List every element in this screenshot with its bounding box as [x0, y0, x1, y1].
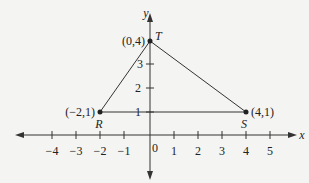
x-tick-label: −3 — [70, 144, 83, 158]
y-axis-label: y — [142, 6, 149, 20]
point-S-name: S — [241, 117, 247, 131]
segment-TS — [150, 41, 246, 112]
triangle-RST — [100, 41, 246, 112]
x-tick-label: 5 — [267, 144, 273, 158]
point-S-coord: (4,1) — [251, 105, 274, 119]
point-T — [148, 39, 153, 44]
x-tick-label: −1 — [118, 144, 131, 158]
y-tick-label: 3 — [137, 57, 143, 71]
coordinate-plane: −4 −3 −2 −1 0 1 2 3 4 5 1 2 3 y x (0,4) … — [0, 0, 309, 183]
point-R-coord: (−2,1) — [65, 105, 95, 119]
point-T-name: T — [155, 29, 163, 43]
y-axis-down-arrow-icon — [147, 171, 153, 180]
origin-label: 0 — [152, 141, 158, 155]
x-axis-right-arrow-icon — [288, 132, 297, 138]
x-tick-label: 4 — [243, 144, 249, 158]
y-tick-label: 2 — [135, 81, 141, 95]
x-tick-label: −2 — [94, 144, 107, 158]
point-S — [244, 110, 249, 115]
x-tick-label: 3 — [219, 144, 225, 158]
x-tick-label: 1 — [171, 144, 177, 158]
segment-TR — [100, 41, 150, 112]
x-tick-label: −4 — [46, 144, 59, 158]
x-axis-label: x — [298, 128, 305, 142]
point-R — [98, 110, 103, 115]
point-T-coord: (0,4) — [122, 34, 145, 48]
x-tick-label: 2 — [195, 144, 201, 158]
x-axis-left-arrow-icon — [15, 132, 24, 138]
point-R-name: R — [94, 117, 103, 131]
